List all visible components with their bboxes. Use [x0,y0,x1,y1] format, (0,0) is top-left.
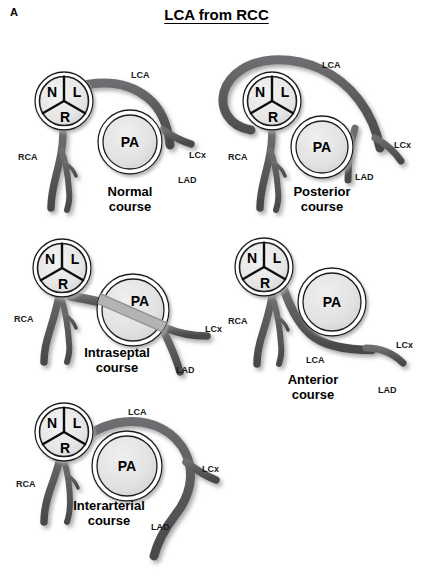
posterior-label-lad: LAD [355,172,374,182]
normal-label-lad: LAD [178,175,197,185]
posterior-caption-line1: Posterior [293,184,350,199]
normal-cusp-n: N [47,84,57,100]
normal-caption-line1: Normal [108,184,153,199]
normal-caption-line2: course [109,199,152,214]
posterior-label-lca: LCA [322,60,341,70]
intraseptal-label-lcx: LCx [205,324,222,334]
posterior-pa-label: PA [313,139,331,155]
intraseptal-cusp-n: N [45,251,55,267]
interarterial-caption-line2: course [88,513,131,528]
coronary-variants-diagram: PA N L R LCA LCx LAD RCA Normal course [0,0,433,579]
posterior-cusp-r: R [268,109,278,125]
normal-label-lca: LCA [131,70,150,80]
intraseptal-rca-branch [62,300,69,362]
intraseptal-label-lad: LAD [176,365,195,375]
interarterial-label-lad: LAD [151,522,170,532]
anterior-label-lcx: LCx [396,340,413,350]
interarterial-label-rca: RCA [16,479,36,489]
anterior-label-lca: LCA [306,355,325,365]
figure-root: A LCA from RCC [0,0,433,579]
intraseptal-pa-label: PA [131,293,149,309]
panel-intraseptal-course: PA N L R LCx LAD RCA Intraseptal course [14,239,222,375]
panel-anterior-course: PA N L R LCA LCx LAD RCA Anterior course [228,238,413,402]
intraseptal-caption-line2: course [96,360,139,375]
anterior-pa-label: PA [323,294,341,310]
panel-posterior-course: PA N L R LCA LCx LAD RCA Posterior cours… [223,60,411,214]
anterior-rca-main [257,288,273,364]
anterior-cusp-r: R [260,275,270,291]
intraseptal-cusp-l: L [71,251,80,267]
normal-cusp-r: R [60,109,70,125]
posterior-label-lcx: LCx [394,140,411,150]
interarterial-label-lcx: LCx [202,464,219,474]
interarterial-label-lca: LCA [128,407,147,417]
anterior-cusp-l: L [273,250,282,266]
normal-label-rca: RCA [18,152,38,162]
posterior-rca-vessel-group [260,132,285,210]
normal-cusp-l: L [73,84,82,100]
normal-rca-branch [61,150,69,210]
posterior-label-rca: RCA [228,152,248,162]
anterior-caption-line1: Anterior [288,372,339,387]
posterior-cusp-l: L [281,84,290,100]
interarterial-cusp-r: R [60,440,70,456]
intraseptal-cusp-r: R [58,276,68,292]
anterior-caption-line2: course [292,387,335,402]
normal-rca-main [51,132,63,208]
panel-interarterial-course: PA N L R LCA LCx LAD RCA Interarterial c… [16,403,219,556]
interarterial-rca-branch [64,460,70,522]
panel-normal-course: PA N L R LCA LCx LAD RCA Normal course [18,70,206,214]
intraseptal-lcx-branch [166,328,207,336]
anterior-rca-branch [274,302,281,364]
posterior-cusp-n: N [255,84,265,100]
posterior-rca-main [260,132,272,208]
normal-label-lcx: LCx [189,150,206,160]
intraseptal-caption-line1: Intraseptal [84,345,150,360]
interarterial-cusp-l: L [73,415,82,431]
posterior-rca-branch [270,150,278,210]
posterior-caption-line2: course [301,199,344,214]
anterior-cusp-n: N [247,250,257,266]
anterior-label-lad: LAD [378,385,397,395]
anterior-label-rca: RCA [228,316,248,326]
normal-pa-label: PA [121,134,139,150]
intraseptal-label-rca: RCA [14,314,34,324]
interarterial-pa-label: PA [118,458,136,474]
interarterial-cusp-n: N [47,415,57,431]
interarterial-caption-line1: Interarterial [73,498,145,513]
normal-rca-vessel-group [51,132,76,210]
